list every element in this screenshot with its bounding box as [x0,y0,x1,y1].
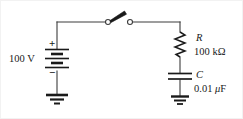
knife-switch[interactable] [106,11,133,25]
resistor-zigzag-icon [175,32,185,57]
resistor-symbol [175,32,185,57]
switch-left-terminal-icon [106,20,111,25]
resistor-name-label: R [196,33,202,44]
capacitor-value-number: 0.01 [194,83,215,94]
switch-blade-icon[interactable] [110,11,127,22]
circuit-diagram-figure: 100 V + − R 100 kΩ C 0.01 μF [0,0,243,119]
capacitor-value-label: 0.01 μF [194,84,226,95]
source-value-label: 100 V [9,54,35,65]
resistor-value-label: 100 kΩ [194,47,225,58]
circuit-schematic-canvas [0,0,243,119]
capacitor-name-label: C [196,70,203,81]
ground-left-icon [46,95,68,104]
capacitor-symbol [168,74,192,80]
battery-positive-terminal-label: + [49,38,55,49]
switch-right-terminal-icon [128,20,133,25]
battery-negative-terminal-label: − [49,67,55,78]
capacitor-value-unit: F [220,83,226,94]
battery-symbol [45,50,69,68]
ground-right-icon [171,97,189,105]
